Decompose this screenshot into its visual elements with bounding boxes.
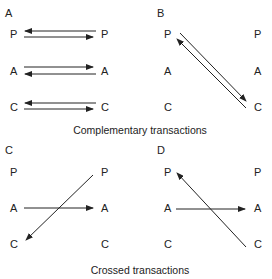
caption-crossed: Crossed transactions [91,264,190,276]
right-node-p: P [101,28,108,40]
arrow-icon [180,33,246,101]
left-node-c: C [164,101,172,113]
panel-title-b: B [157,7,164,19]
panel-c: C P A C P A C [5,144,109,250]
panel-title-d: D [157,144,165,156]
right-node-p: P [101,166,108,178]
right-node-a: A [254,65,262,77]
arrow-icon [177,173,246,247]
left-node-a: A [164,65,172,77]
panel-title-a: A [5,7,13,19]
right-node-c: C [101,101,109,113]
left-node-a: A [10,65,18,77]
left-node-p: P [164,166,171,178]
right-node-c: C [101,238,109,250]
left-node-p: P [10,28,17,40]
right-node-c: C [254,238,262,250]
left-node-a: A [10,202,18,214]
right-node-c: C [254,101,262,113]
left-node-c: C [10,238,18,250]
panel-title-c: C [5,144,13,156]
panel-a: A P A C P A C [5,7,109,113]
left-node-a: A [164,202,172,214]
left-node-p: P [164,28,171,40]
left-node-c: C [164,238,172,250]
right-node-p: P [254,28,261,40]
caption-complementary: Complementary transactions [73,124,207,136]
left-node-p: P [10,166,17,178]
right-node-a: A [101,65,109,77]
panel-b: B P A C P A C [157,7,262,113]
left-node-c: C [10,101,18,113]
transactions-diagram: A P A C P A C B P A C P A C Complementar… [0,0,272,279]
right-node-a: A [101,202,109,214]
right-node-p: P [254,166,261,178]
right-node-a: A [254,202,262,214]
arrow-icon [177,39,246,108]
panel-d: D P A C P A C [157,144,262,250]
